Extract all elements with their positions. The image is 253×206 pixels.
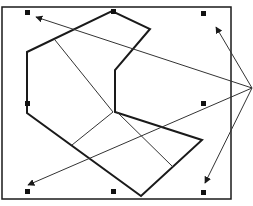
handle-middle-right[interactable] [201, 101, 206, 106]
inner-line-1 [55, 40, 113, 112]
arrow-to-bottom-left-icon [28, 88, 252, 185]
handle-bottom-right[interactable] [201, 190, 206, 195]
inner-line-3 [117, 112, 173, 167]
bounding-frame [2, 7, 231, 199]
handle-top-center[interactable] [111, 9, 116, 14]
arrow-to-top-left-icon [36, 17, 252, 88]
inner-line-2 [72, 112, 113, 145]
handle-middle-left[interactable] [25, 101, 30, 106]
arrow-to-bottom-right-icon [205, 88, 252, 183]
handle-top-right[interactable] [201, 11, 206, 16]
handle-bottom-left[interactable] [25, 189, 30, 194]
arrow-to-top-right-icon [216, 27, 252, 88]
handle-bottom-center[interactable] [111, 189, 116, 194]
diagram-canvas [0, 0, 253, 206]
selected-shape-outline[interactable] [27, 11, 202, 196]
handle-top-left[interactable] [25, 10, 30, 15]
